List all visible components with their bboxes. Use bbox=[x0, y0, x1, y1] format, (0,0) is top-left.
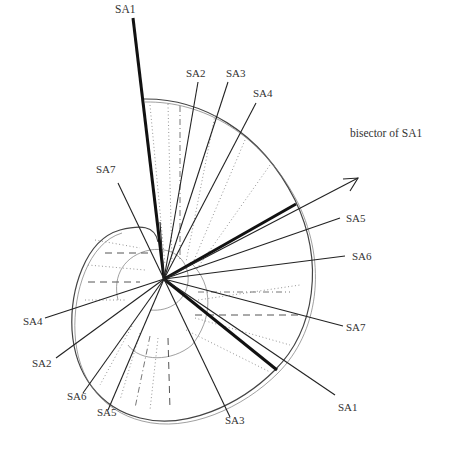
label-sa1-top: SA1 bbox=[115, 3, 136, 15]
ray-sa2-top bbox=[164, 82, 198, 279]
ray-bisector bbox=[164, 178, 358, 279]
label-sa4-top: SA4 bbox=[253, 87, 273, 99]
label-sa5-right: SA5 bbox=[346, 212, 366, 224]
label-sa2-top: SA2 bbox=[186, 67, 206, 79]
label-bisector: bisector of SA1 bbox=[350, 127, 422, 139]
label-sa3-bottom: SA3 bbox=[225, 414, 245, 426]
labels: SA1 SA2 SA3 SA4 bisector of SA1 SA5 SA6 … bbox=[23, 3, 422, 426]
ray-sa4-left bbox=[45, 279, 164, 318]
ray-sa5-bottom bbox=[108, 279, 164, 410]
label-sa4-left: SA4 bbox=[23, 315, 43, 327]
ray-sa6-bottom bbox=[83, 279, 164, 393]
label-sa2-left: SA2 bbox=[32, 357, 52, 369]
ray-sa5-right bbox=[164, 218, 340, 279]
label-sa5-bottom: SA5 bbox=[97, 406, 117, 418]
label-sa6-bottom: SA6 bbox=[67, 390, 87, 402]
label-sa7-topleft: SA7 bbox=[96, 163, 116, 175]
label-sa6-right: SA6 bbox=[352, 250, 372, 262]
spiral-shell-diagram: SA1 SA2 SA3 SA4 bisector of SA1 SA5 SA6 … bbox=[0, 0, 450, 449]
ray-sa6-right bbox=[164, 256, 345, 279]
label-sa1-bottom: SA1 bbox=[338, 401, 358, 413]
label-sa3-top: SA3 bbox=[226, 67, 246, 79]
label-sa7-right: SA7 bbox=[346, 321, 366, 333]
ray-sa3-bottom bbox=[164, 279, 230, 417]
ray-sa1-bottom bbox=[164, 279, 335, 395]
ray-sa1-bottom-thick bbox=[164, 279, 277, 370]
ray-sa1-top bbox=[133, 18, 164, 279]
